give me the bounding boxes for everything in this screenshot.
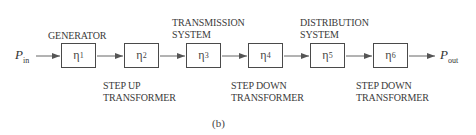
block-generator: η1: [61, 43, 96, 68]
label-step-down1-line1: STEP DOWN: [231, 80, 287, 91]
eta-subscript: 3: [205, 51, 209, 60]
label-step-down2-line2: TRANSFORMER: [356, 92, 429, 103]
figure-caption: (b): [212, 117, 225, 129]
label-distribution-line1: DISTRIBUTION: [300, 17, 369, 28]
eta-subscript: 2: [143, 51, 147, 60]
eta-subscript: 1: [80, 51, 84, 60]
block-transmission-system: η3: [186, 43, 221, 68]
label-step-down2-line1: STEP DOWN: [356, 80, 412, 91]
label-step-up-line1: STEP UP: [103, 80, 141, 91]
block-step-down-transformer-1: η4: [248, 43, 283, 68]
output-subscript: out: [448, 56, 458, 65]
output-power-label: Pout: [440, 47, 458, 65]
input-subscript: in: [23, 56, 29, 65]
eta-subscript: 6: [392, 51, 396, 60]
label-distribution-line2: SYSTEM: [300, 29, 339, 40]
input-power-label: Pin: [15, 47, 29, 65]
label-step-down1-line2: TRANSFORMER: [231, 92, 304, 103]
label-transmission-line2: SYSTEM: [172, 29, 211, 40]
block-step-up-transformer: η2: [124, 43, 159, 68]
output-symbol: P: [440, 47, 448, 62]
eta-subscript: 4: [267, 51, 271, 60]
eta-subscript: 5: [329, 51, 333, 60]
block-distribution-system: η5: [310, 43, 345, 68]
label-generator: GENERATOR: [48, 30, 106, 41]
label-transmission-line1: TRANSMISSION: [172, 17, 245, 28]
label-step-up-line2: TRANSFORMER: [103, 92, 176, 103]
block-step-down-transformer-2: η6: [373, 43, 408, 68]
input-symbol: P: [15, 47, 23, 62]
